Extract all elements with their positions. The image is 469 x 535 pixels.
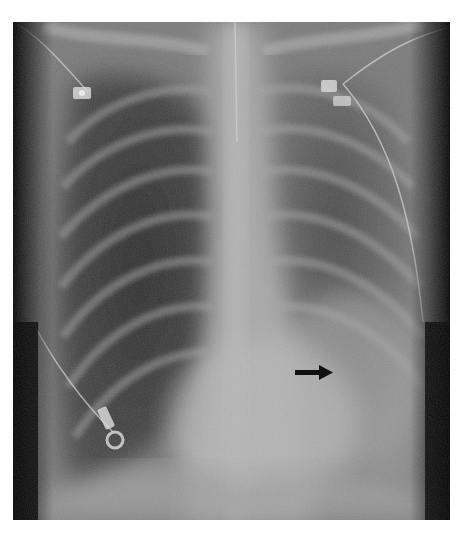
figure-caption (175, 527, 325, 535)
chest-xray-image (13, 22, 450, 520)
xray-rendering (13, 22, 450, 520)
